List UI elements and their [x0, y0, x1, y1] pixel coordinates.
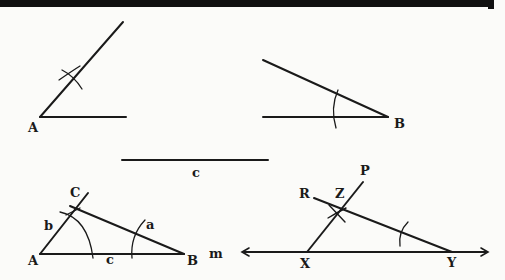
label-point-p: P [360, 164, 370, 177]
figure-triangle [40, 193, 184, 258]
label-vertex-b: B [394, 117, 405, 130]
label-point-r: R [299, 187, 310, 200]
figure-angle-b [263, 60, 388, 128]
label-point-x: X [300, 257, 310, 270]
label-triangle-a: A [28, 254, 38, 267]
label-point-z: Z [335, 187, 345, 200]
label-point-y: Y [447, 256, 456, 269]
label-triangle-c: C [70, 186, 80, 199]
geometry-constructions: A B c C b a A c B m X Y Z P R [0, 0, 505, 280]
label-triangle-b: B [187, 254, 198, 267]
label-side-b: b [44, 219, 53, 232]
figure-angle-a [40, 22, 126, 117]
construction-drawings [0, 0, 505, 280]
label-vertex-a: A [28, 121, 38, 134]
top-band [0, 0, 494, 7]
label-side-c: c [106, 253, 114, 266]
figure-xy-construction [242, 182, 488, 256]
label-segment-c: c [192, 166, 200, 179]
label-line-m: m [209, 247, 223, 260]
label-side-a: a [146, 218, 154, 231]
